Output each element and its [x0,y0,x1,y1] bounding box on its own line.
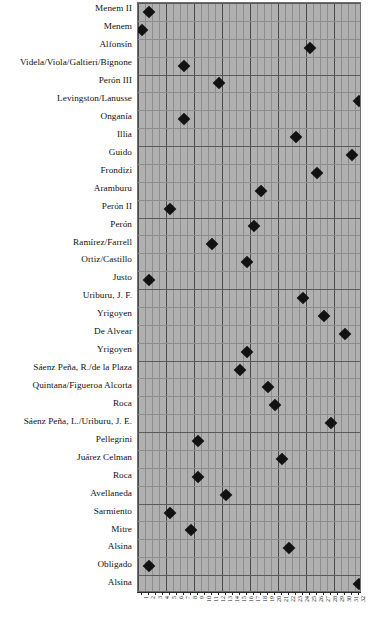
data-point-marker [324,417,337,430]
y-axis-tick-label: Alfonsín [0,36,136,54]
y-axis-tick-label: Perón III [0,72,136,90]
x-axis-tick-label: 9 [199,596,205,599]
x-axis-tick [260,592,261,595]
x-axis-tick [155,592,156,595]
x-axis-tick [351,592,352,595]
data-point-marker [282,542,295,555]
x-axis-tick-label: 21 [283,596,289,602]
data-point-marker [177,113,190,126]
x-axis-tick-label: 19 [269,596,275,602]
data-point-markers [138,3,360,591]
plot-area [137,2,361,592]
y-axis-tick-label: Quintana/Figueroa Alcorta [0,377,136,395]
y-axis-tick-label: Sáenz Peña, L./Uriburu, J. E. [0,413,136,431]
x-axis-tick [337,592,338,595]
x-axis-tick [204,592,205,595]
x-axis-tick-label: 24 [304,596,310,602]
y-axis-tick-label: Frondizi [0,161,136,179]
x-axis-tick [148,592,149,595]
y-axis-tick-label: Sarmiento [0,502,136,520]
y-axis-tick-label: Perón II [0,197,136,215]
x-axis-tick [309,592,310,595]
y-axis-label-column: Menem IIMenemAlfonsínVidela/Viola/Galtie… [0,0,136,592]
x-axis-tick-label: 1 [143,596,149,599]
y-axis-tick-label: Obligado [0,556,136,574]
y-axis-tick-label: Alsina [0,538,136,556]
x-axis-tick-label: 22 [290,596,296,602]
x-axis-tick-label: 3 [157,596,163,599]
x-axis-tick [218,592,219,595]
x-axis-tick-label: 25 [311,596,317,602]
x-axis-tick-label: 8 [192,596,198,599]
x-axis-line [137,592,361,593]
data-point-marker [338,327,351,340]
y-axis-tick-label: Avellaneda [0,484,136,502]
y-axis-tick-label: Levingston/Lanusse [0,90,136,108]
x-axis-tick [169,592,170,595]
data-point-marker [212,77,225,90]
x-axis-tick-label: 18 [262,596,268,602]
y-axis-tick-label: Pellegrini [0,431,136,449]
x-axis-tick [246,592,247,595]
x-axis-tick-label: 29 [339,596,345,602]
y-axis-tick-label: Mitre [0,520,136,538]
x-axis-tick-label: 7 [185,596,191,599]
y-axis-tick-label: Alsina [0,574,136,592]
y-axis-tick-label: Yrigoyen [0,305,136,323]
x-axis-tick-label: 20 [276,596,282,602]
x-axis-tick-label: 31 [353,596,359,602]
data-point-marker [317,310,330,323]
data-point-marker [268,399,281,412]
x-axis-tick [316,592,317,595]
x-axis-tick-label: 32 [360,596,366,602]
y-axis-tick-label: Guido [0,144,136,162]
y-axis-tick-label: De Alvear [0,323,136,341]
y-axis-tick-label: Sáenz Peña, R./de la Plaza [0,359,136,377]
data-point-marker [240,256,253,269]
x-axis-tick [253,592,254,595]
data-point-marker [345,149,358,162]
data-point-marker [177,59,190,72]
y-axis-tick-label: Videla/Viola/Galtieri/Bignone [0,54,136,72]
data-point-marker [205,238,218,251]
data-point-marker [254,184,267,197]
x-axis-tick [288,592,289,595]
x-axis-tick [211,592,212,595]
data-point-marker [163,202,176,215]
data-point-marker [275,453,288,466]
y-axis-tick-label: Perón [0,215,136,233]
x-axis-tick [330,592,331,595]
data-point-marker [261,381,274,394]
x-axis-tick-label: 12 [220,596,226,602]
x-axis-tick [176,592,177,595]
x-axis-tick [274,592,275,595]
x-axis-tick [183,592,184,595]
y-axis-tick-label: Aramburu [0,179,136,197]
x-axis-tick-label: 27 [325,596,331,602]
data-point-marker [296,292,309,305]
x-axis-tick-label: 6 [178,596,184,599]
data-point-marker [352,95,361,108]
x-axis-tick-label: 26 [318,596,324,602]
data-point-marker [233,363,246,376]
x-axis-tick-label: 14 [234,596,240,602]
x-axis-tick-label: 16 [248,596,254,602]
x-axis-tick-label: 5 [171,596,177,599]
x-axis-tick-label: 15 [241,596,247,602]
data-point-marker [247,220,260,233]
x-axis-tick [239,592,240,595]
x-axis-tick-label: 30 [346,596,352,602]
data-point-marker [142,560,155,573]
x-axis-tick [302,592,303,595]
y-axis-tick-label: Juárez Celman [0,448,136,466]
x-axis-tick-label: 11 [213,596,219,602]
data-point-marker [303,41,316,54]
x-axis-tick [295,592,296,595]
y-axis-tick-label: Justo [0,269,136,287]
x-axis-tick [358,592,359,595]
y-axis-tick-label: Ortiz/Castillo [0,251,136,269]
x-axis-tick [197,592,198,595]
x-axis: 1234567891011121314151617181920212223242… [137,592,361,618]
data-point-marker [191,435,204,448]
x-axis-tick [141,592,142,595]
